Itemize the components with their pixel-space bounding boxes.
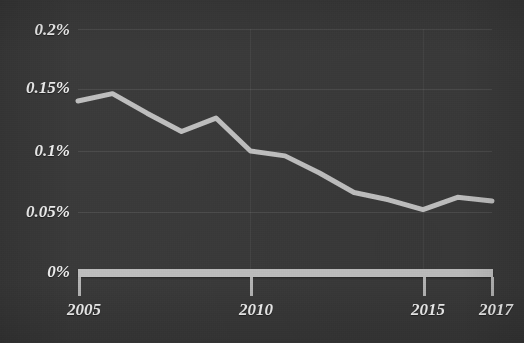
x-tick-label-2010: 2010: [239, 300, 273, 320]
y-tick-label-0: 0.2%: [0, 20, 70, 40]
x-tick-label-2015: 2015: [411, 300, 445, 320]
chart-figure: 0.2% 0.15% 0.1% 0.05% 0% 2005 2010 2015 …: [0, 0, 524, 343]
y-tick-label-4: 0%: [0, 262, 70, 282]
y-tick-label-2: 0.1%: [0, 141, 70, 161]
x-tick-2017: [491, 277, 494, 296]
x-tick-2015: [423, 277, 426, 296]
x-tick-2010: [250, 277, 253, 296]
vgridline-2015: [423, 29, 424, 273]
y-tick-label-3: 0.05%: [0, 202, 70, 222]
gridline-0.15: [78, 89, 492, 90]
x-tick-2005: [78, 277, 81, 296]
gridline-0.1: [78, 151, 492, 152]
x-axis-line: [78, 269, 493, 277]
gridline-0.05: [78, 212, 492, 213]
x-tick-label-2017: 2017: [479, 300, 513, 320]
x-tick-label-2005: 2005: [67, 300, 101, 320]
plot-area: [78, 29, 492, 273]
gridline-0.2: [78, 29, 492, 30]
y-tick-label-1: 0.15%: [0, 78, 70, 98]
vgridline-2010: [250, 29, 251, 273]
